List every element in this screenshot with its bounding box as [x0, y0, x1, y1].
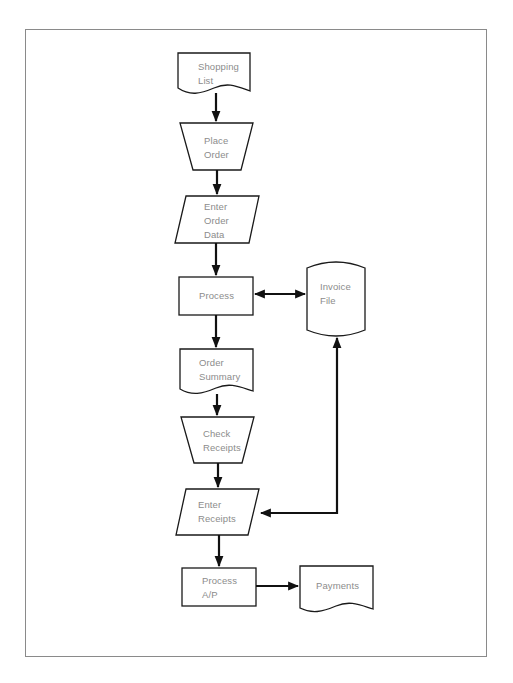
edge-enter-receipts-invoice-file-bidirectional [261, 338, 337, 513]
enter-receipts-label: Enter Receipts [198, 498, 236, 526]
check-receipts-label: Check Receipts [203, 427, 241, 455]
order-summary-label: Order Summary [199, 356, 240, 384]
process-label: Process [199, 289, 234, 303]
invoice-file-label: Invoice File [320, 280, 351, 308]
flowchart-canvas [0, 0, 513, 683]
enter-order-data-label: Enter Order Data [204, 200, 229, 242]
shopping-list-label: Shopping List [198, 60, 239, 88]
place-order-label: Place Order [204, 134, 229, 162]
process-ap-label: Process A/P [202, 574, 237, 602]
payments-label: Payments [316, 579, 359, 593]
